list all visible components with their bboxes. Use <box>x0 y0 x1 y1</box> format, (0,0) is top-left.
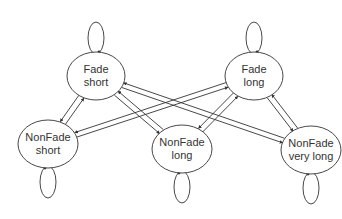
self-loop-fade_long <box>246 22 262 54</box>
node-label-line1: Fade <box>83 63 108 76</box>
node-label-line1: Fade <box>241 63 266 76</box>
node-label-line1: NonFade <box>25 131 70 144</box>
self-loop-nonfade_long <box>174 171 190 203</box>
edge-nonfade_very_long-to-fade_long <box>272 95 298 128</box>
node-label-fade_short: Fadeshort <box>83 63 108 89</box>
node-label-line2: very long <box>288 150 333 163</box>
self-loop-fade_short <box>88 22 104 54</box>
node-label-fade_long: Fadelong <box>241 63 266 89</box>
node-label-line1: NonFade <box>288 137 333 150</box>
node-label-line2: long <box>159 149 204 162</box>
edge-fade_short-to-nonfade_long <box>114 95 159 133</box>
edge-nonfade_long-to-fade_long <box>203 96 238 132</box>
node-label-nonfade_long: NonFadelong <box>159 136 204 162</box>
node-label-nonfade_very_long: NonFadevery long <box>288 137 333 163</box>
node-label-line2: short <box>83 76 108 89</box>
state-diagram <box>0 0 342 219</box>
node-label-line2: long <box>241 76 266 89</box>
edges-layer <box>40 22 319 204</box>
node-label-line2: short <box>25 144 70 157</box>
self-loop-nonfade_very_long <box>303 172 319 204</box>
node-label-line1: NonFade <box>159 136 204 149</box>
edge-fade_long-to-nonfade_very_long <box>267 98 293 131</box>
node-label-nonfade_short: NonFadeshort <box>25 131 70 157</box>
self-loop-nonfade_short <box>40 166 56 198</box>
